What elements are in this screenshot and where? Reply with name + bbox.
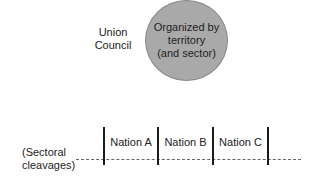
union-council-line2: Council	[88, 39, 138, 52]
union-council-label: Union Council	[88, 26, 138, 52]
circle-line3: (and sector)	[157, 47, 216, 60]
cleavages-line2: cleavages)	[22, 159, 75, 172]
nation-c-label: Nation C	[214, 136, 267, 149]
territory-circle: Organized by territory (and sector)	[145, 0, 228, 81]
union-council-line1: Union	[88, 26, 138, 39]
circle-line1: Organized by	[154, 21, 219, 34]
nation-a-label: Nation A	[105, 136, 157, 149]
cleavages-line1: (Sectoral	[22, 146, 75, 159]
nation-divider-4	[267, 127, 269, 165]
nation-b-label: Nation B	[159, 136, 212, 149]
sectoral-cleavages-label: (Sectoral cleavages)	[22, 146, 75, 172]
circle-line2: territory	[168, 34, 205, 47]
